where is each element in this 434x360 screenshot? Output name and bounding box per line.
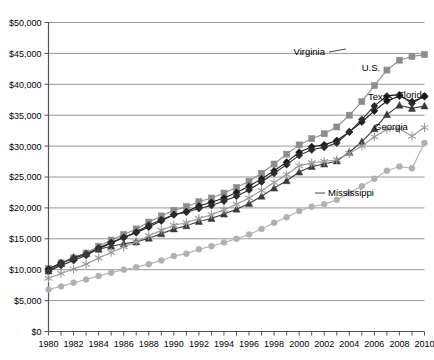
- marker-square: [346, 112, 352, 118]
- marker-square: [371, 83, 377, 89]
- marker-circle: [46, 286, 52, 292]
- series-line: [49, 143, 425, 289]
- marker-asterisk: [283, 170, 291, 179]
- x-tick-label: 1984: [89, 339, 109, 349]
- x-tick-label: 1980: [38, 339, 58, 349]
- marker-circle: [284, 214, 290, 220]
- x-tick-label: 1994: [214, 339, 234, 349]
- chart-container: $0$5,000$10,000$15,000$20,000$25,000$30,…: [0, 0, 434, 360]
- marker-circle: [58, 283, 64, 289]
- marker-asterisk: [245, 194, 253, 203]
- marker-square: [384, 67, 390, 73]
- marker-circle: [221, 240, 227, 246]
- marker-circle: [83, 277, 89, 283]
- marker-square: [422, 52, 428, 58]
- marker-square: [284, 151, 290, 157]
- y-tick-label: $25,000: [9, 172, 42, 182]
- y-tick-label: $0: [31, 327, 41, 337]
- series-label-mississippi: Mississippi: [328, 187, 374, 198]
- x-tick-label: 2002: [314, 339, 334, 349]
- series-georgia: [45, 123, 429, 283]
- marker-circle: [133, 264, 139, 270]
- marker-asterisk: [421, 123, 429, 132]
- marker-asterisk: [195, 214, 203, 223]
- y-axis-ticks: $0$5,000$10,000$15,000$20,000$25,000$30,…: [9, 18, 49, 337]
- marker-square: [296, 142, 302, 148]
- x-tick-label: 1998: [264, 339, 284, 349]
- marker-asterisk: [258, 186, 266, 195]
- marker-circle: [146, 261, 152, 267]
- marker-square: [334, 124, 340, 130]
- series-florida: [45, 91, 428, 275]
- marker-asterisk: [57, 269, 65, 278]
- x-tick-label: 1988: [139, 339, 159, 349]
- series-label-u-s-: U.S.: [362, 62, 380, 73]
- marker-circle: [121, 267, 127, 273]
- marker-circle: [396, 163, 402, 169]
- x-tick-label: 1996: [239, 339, 259, 349]
- x-tick-label: 2000: [289, 339, 309, 349]
- line-chart: $0$5,000$10,000$15,000$20,000$25,000$30,…: [0, 0, 434, 360]
- marker-triangle: [383, 111, 390, 118]
- y-tick-label: $35,000: [9, 111, 42, 121]
- series-label-virginia: Virginia: [293, 46, 325, 57]
- marker-circle: [384, 168, 390, 174]
- marker-asterisk: [295, 161, 303, 170]
- marker-triangle: [421, 102, 428, 109]
- marker-circle: [71, 280, 77, 286]
- marker-circle: [422, 140, 428, 146]
- marker-circle: [271, 220, 277, 226]
- y-tick-label: $10,000: [9, 265, 42, 275]
- marker-circle: [296, 208, 302, 214]
- x-tick-label: 1982: [64, 339, 84, 349]
- marker-circle: [321, 201, 327, 207]
- marker-square: [271, 161, 277, 167]
- x-axis-ticks: 1980198219841986198819901992199419961998…: [38, 332, 434, 349]
- marker-square: [309, 136, 315, 142]
- marker-square: [409, 53, 415, 59]
- marker-asterisk: [95, 254, 103, 263]
- x-tick-label: 2008: [389, 339, 409, 349]
- marker-circle: [171, 253, 177, 259]
- marker-square: [396, 57, 402, 63]
- marker-asterisk: [82, 260, 90, 269]
- marker-square: [321, 131, 327, 137]
- marker-square: [359, 99, 365, 105]
- marker-circle: [158, 257, 164, 263]
- marker-asterisk: [70, 265, 78, 274]
- y-tick-label: $50,000: [9, 18, 42, 28]
- marker-circle: [309, 204, 315, 210]
- series-label-florida: Florida: [398, 89, 428, 100]
- marker-circle: [196, 246, 202, 252]
- x-tick-label: 1986: [114, 339, 134, 349]
- y-tick-label: $20,000: [9, 203, 42, 213]
- marker-triangle: [396, 102, 403, 109]
- marker-asterisk: [408, 132, 416, 141]
- marker-circle: [409, 165, 415, 171]
- y-tick-label: $45,000: [9, 49, 42, 59]
- x-tick-label: 2010: [414, 339, 434, 349]
- series-label-texas: Texas: [368, 91, 393, 102]
- y-tick-label: $5,000: [14, 296, 42, 306]
- marker-asterisk: [371, 132, 379, 141]
- marker-circle: [183, 251, 189, 257]
- series-label-georgia: Georgia: [374, 121, 409, 132]
- x-tick-label: 1990: [164, 339, 184, 349]
- marker-circle: [246, 231, 252, 237]
- y-tick-label: $40,000: [9, 80, 42, 90]
- marker-asterisk: [45, 274, 53, 283]
- marker-asterisk: [270, 178, 278, 187]
- x-tick-label: 1992: [189, 339, 209, 349]
- series-u-s-: [45, 92, 428, 272]
- marker-circle: [234, 236, 240, 242]
- marker-circle: [371, 176, 377, 182]
- marker-asterisk: [233, 200, 241, 209]
- x-tick-label: 2006: [364, 339, 384, 349]
- marker-circle: [259, 226, 265, 232]
- x-tick-label: 2004: [339, 339, 359, 349]
- y-tick-label: $30,000: [9, 142, 42, 152]
- y-tick-label: $15,000: [9, 234, 42, 244]
- series-layer: [45, 52, 429, 293]
- marker-circle: [96, 273, 102, 279]
- annotation-leader: [329, 49, 346, 52]
